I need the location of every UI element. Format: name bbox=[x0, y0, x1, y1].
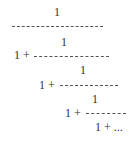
numerator-3: 1 bbox=[80, 64, 86, 76]
fraction-bar-4 bbox=[86, 113, 126, 114]
prefix-3: 1 + bbox=[39, 79, 55, 91]
fraction-bar-1 bbox=[12, 26, 103, 27]
fraction-bar-3 bbox=[60, 85, 118, 86]
numerator-4: 1 bbox=[92, 93, 98, 105]
numerator-1: 1 bbox=[54, 6, 60, 18]
fraction-bar-2 bbox=[34, 56, 109, 57]
prefix-4: 1 + bbox=[65, 107, 81, 119]
prefix-2: 1 + bbox=[14, 49, 30, 61]
numerator-2: 1 bbox=[61, 36, 67, 48]
tail-expression: 1 + ... bbox=[95, 121, 123, 133]
